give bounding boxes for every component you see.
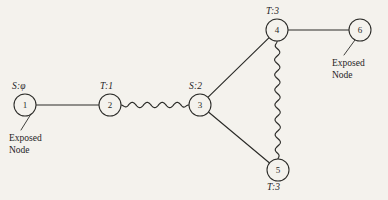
node-label-3: 3 xyxy=(198,100,203,110)
nodes-layer: 123456 xyxy=(14,19,371,181)
exposed-node-1-annotation: ExposedNode xyxy=(9,133,42,156)
annotation-line-2: Node xyxy=(332,70,365,82)
node-label-6: 6 xyxy=(358,25,363,35)
state-label-node-4: T:3 xyxy=(266,6,279,16)
edge-3-5 xyxy=(208,112,269,163)
node-4[interactable]: 4 xyxy=(266,19,288,41)
graph-canvas: 123456 xyxy=(0,0,388,200)
node-3[interactable]: 3 xyxy=(189,94,211,116)
graph-figure: 123456 S:φT:1S:2T:3T:3 ExposedNodeExpose… xyxy=(0,0,388,200)
state-label-node-1: S:φ xyxy=(12,81,26,91)
node-6[interactable]: 6 xyxy=(349,19,371,41)
leader-line-exposed-node-6 xyxy=(344,40,355,55)
node-label-4: 4 xyxy=(275,25,280,35)
node-label-5: 5 xyxy=(276,165,281,175)
state-label-node-3: S:2 xyxy=(189,81,202,91)
annotation-line-1: Exposed xyxy=(332,58,365,70)
edge-3-4 xyxy=(208,38,269,98)
node-2[interactable]: 2 xyxy=(99,94,121,116)
annotation-line-1: Exposed xyxy=(9,133,42,145)
state-label-node-2: T:1 xyxy=(100,81,113,91)
edge-2-3 xyxy=(121,102,189,107)
edge-4-5 xyxy=(275,41,281,159)
leader-lines-layer xyxy=(21,40,355,130)
node-label-2: 2 xyxy=(108,100,113,110)
node-label-1: 1 xyxy=(23,100,28,110)
node-5[interactable]: 5 xyxy=(267,159,289,181)
exposed-node-6-annotation: ExposedNode xyxy=(332,58,365,81)
state-label-node-5: T:3 xyxy=(267,182,280,192)
annotation-line-2: Node xyxy=(9,145,42,157)
node-1[interactable]: 1 xyxy=(14,94,36,116)
